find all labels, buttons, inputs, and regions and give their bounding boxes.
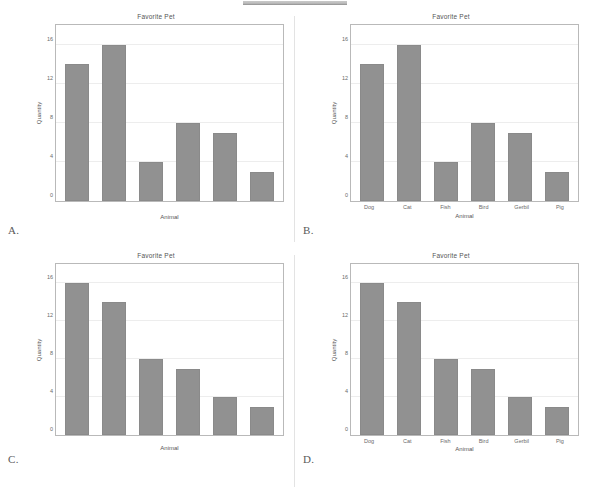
y-tick-label: 12 — [47, 75, 53, 81]
y-tick-label: 16 — [47, 36, 53, 42]
x-tick-label: Pig — [548, 438, 572, 444]
panel-b: B. Favorite Pet Quantity 0481216 DogCatF… — [295, 8, 590, 247]
y-axis-label: Quantity — [331, 339, 337, 361]
bar — [434, 359, 458, 435]
bar-series — [56, 264, 283, 435]
y-tick-label: 4 — [345, 153, 348, 159]
x-tick-label: Dog — [357, 438, 381, 444]
plot-area: 0481216 — [55, 24, 284, 202]
bar — [545, 172, 569, 201]
bar-series — [56, 25, 283, 201]
panel-letter-d: D. — [303, 453, 314, 465]
y-tick-label: 16 — [342, 36, 348, 42]
bar — [397, 302, 421, 435]
bar — [176, 369, 200, 436]
y-axis-label: Quantity — [331, 102, 337, 124]
chart-a: Favorite Pet Quantity 0481216 Animal — [22, 8, 290, 244]
chart-b: Favorite Pet Quantity 0481216 DogCatFish… — [317, 8, 585, 244]
y-axis-label: Quantity — [36, 339, 42, 361]
x-tick-label: Fish — [433, 438, 457, 444]
panel-letter-c: C. — [8, 453, 19, 465]
bar — [250, 407, 274, 436]
bar — [434, 162, 458, 201]
x-axis-label: Animal — [55, 214, 284, 220]
chart-title: Favorite Pet — [22, 252, 290, 259]
bar — [102, 45, 126, 201]
x-axis-label: Animal — [350, 213, 579, 219]
x-tick-label: Bird — [472, 204, 496, 210]
y-tick-label: 8 — [50, 350, 53, 356]
x-tick-labels: DogCatFishBirdGerbilPig — [350, 438, 579, 444]
bar — [213, 133, 237, 201]
y-tick-label: 0 — [50, 426, 53, 432]
y-tick-label: 4 — [50, 388, 53, 394]
y-tick-label: 8 — [345, 350, 348, 356]
bar — [397, 45, 421, 201]
bar — [471, 369, 495, 436]
y-tick-label: 0 — [345, 426, 348, 432]
bar — [360, 283, 384, 435]
panel-letter-a: A. — [8, 224, 19, 236]
y-tick-label: 8 — [50, 114, 53, 120]
bar — [471, 123, 495, 201]
y-tick-label: 0 — [50, 192, 53, 198]
bar — [139, 359, 163, 435]
bar — [65, 64, 89, 201]
x-tick-label: Gerbil — [510, 438, 534, 444]
bar — [213, 397, 237, 435]
bar — [360, 64, 384, 201]
plot-area: 0481216 — [350, 263, 579, 436]
bar — [508, 397, 532, 435]
bar-series — [351, 25, 578, 201]
redaction-bar — [243, 1, 347, 5]
chart-title: Favorite Pet — [22, 13, 290, 20]
panel-a: A. Favorite Pet Quantity 0481216 Animal — [0, 8, 295, 247]
bar-series — [351, 264, 578, 435]
plot-area: 0481216 — [55, 263, 284, 436]
y-tick-label: 16 — [47, 274, 53, 280]
chart-title: Favorite Pet — [317, 252, 585, 259]
x-tick-label: Fish — [433, 204, 457, 210]
bar — [176, 123, 200, 201]
x-tick-label: Cat — [395, 438, 419, 444]
plot-area: 0481216 — [350, 24, 579, 202]
bar — [102, 302, 126, 435]
chart-c: Favorite Pet Quantity 0481216 Animal — [22, 247, 290, 483]
chart-d: Favorite Pet Quantity 0481216 DogCatFish… — [317, 247, 585, 483]
panel-d: D. Favorite Pet Quantity 0481216 DogCatF… — [295, 247, 590, 486]
y-tick-label: 16 — [342, 274, 348, 280]
x-axis-label: Animal — [350, 446, 579, 452]
chart-title: Favorite Pet — [317, 13, 585, 20]
y-tick-label: 0 — [345, 192, 348, 198]
figure-panel-grid: A. Favorite Pet Quantity 0481216 Animal … — [0, 8, 590, 486]
bar — [250, 172, 274, 201]
panel-letter-b: B. — [303, 224, 314, 236]
y-tick-label: 12 — [47, 312, 53, 318]
panel-c: C. Favorite Pet Quantity 0481216 Animal — [0, 247, 295, 486]
y-tick-label: 12 — [342, 312, 348, 318]
y-tick-label: 4 — [345, 388, 348, 394]
bar — [508, 133, 532, 201]
y-tick-label: 4 — [50, 153, 53, 159]
x-tick-labels: DogCatFishBirdGerbilPig — [350, 204, 579, 210]
x-tick-label: Dog — [357, 204, 381, 210]
bar — [139, 162, 163, 201]
bar — [65, 283, 89, 435]
x-tick-label: Pig — [548, 204, 572, 210]
y-tick-label: 8 — [345, 114, 348, 120]
y-tick-label: 12 — [342, 75, 348, 81]
x-tick-label: Cat — [395, 204, 419, 210]
x-tick-label: Gerbil — [510, 204, 534, 210]
bar — [545, 407, 569, 436]
x-axis-label: Animal — [55, 445, 284, 451]
x-tick-label: Bird — [472, 438, 496, 444]
y-axis-label: Quantity — [36, 102, 42, 124]
